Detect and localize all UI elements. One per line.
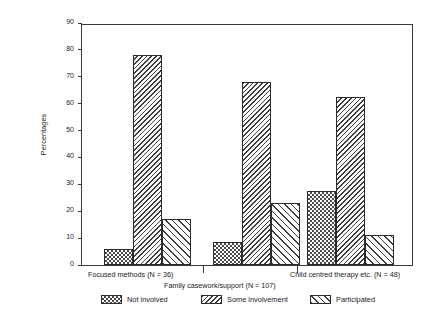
sparse-hatch-swatch bbox=[310, 295, 331, 304]
bar-group bbox=[307, 25, 394, 265]
y-tick-mark bbox=[78, 238, 82, 239]
y-tick-label: 0 bbox=[56, 260, 74, 267]
bar bbox=[133, 55, 162, 265]
legend-item[interactable]: Not involved bbox=[101, 293, 168, 305]
y-tick-mark bbox=[78, 49, 82, 50]
y-tick-mark bbox=[78, 265, 82, 266]
y-tick-label: 60 bbox=[56, 99, 74, 106]
y-tick-label: 90 bbox=[56, 18, 74, 25]
y-tick-label: 50 bbox=[56, 126, 74, 133]
bar bbox=[307, 191, 336, 265]
bar bbox=[242, 82, 271, 265]
bar bbox=[365, 235, 394, 265]
y-tick-label: 20 bbox=[56, 206, 74, 213]
grouped-bar-chart: Percentages 0102030405060708090 Focused … bbox=[0, 0, 436, 326]
y-tick-mark bbox=[78, 184, 82, 185]
legend-label: Some involvement bbox=[227, 295, 288, 304]
category-label: Family casework/support (N = 107) bbox=[164, 281, 276, 290]
legend-item[interactable]: Participated bbox=[310, 293, 375, 305]
y-tick-mark bbox=[78, 23, 82, 24]
checkerboard-swatch bbox=[101, 295, 122, 304]
chart-legend: Not involvedSome involvementParticipated bbox=[0, 293, 436, 311]
y-tick-mark bbox=[78, 211, 82, 212]
plot-area: 0102030405060708090 bbox=[81, 24, 413, 266]
dense-hatch-swatch bbox=[201, 295, 222, 304]
y-tick-label: 40 bbox=[56, 152, 74, 159]
x-axis-divider bbox=[203, 266, 204, 273]
y-tick-mark bbox=[78, 157, 82, 158]
y-tick-label: 10 bbox=[56, 233, 74, 240]
legend-item[interactable]: Some involvement bbox=[201, 293, 288, 305]
y-axis-title: Percentages bbox=[39, 80, 48, 190]
bar bbox=[271, 203, 300, 265]
bar-group bbox=[213, 25, 300, 265]
y-tick-mark bbox=[78, 130, 82, 131]
bar bbox=[336, 97, 365, 265]
bar bbox=[162, 219, 191, 265]
y-tick-mark bbox=[78, 76, 82, 77]
y-tick-label: 30 bbox=[56, 179, 74, 186]
bar bbox=[104, 249, 133, 265]
category-label: Focused methods (N = 36) bbox=[88, 270, 173, 279]
bar bbox=[213, 242, 242, 265]
category-label: Child centred therapy etc. (N = 48) bbox=[290, 270, 400, 279]
legend-label: Not involved bbox=[127, 295, 168, 304]
legend-label: Participated bbox=[336, 295, 375, 304]
y-tick-label: 80 bbox=[56, 45, 74, 52]
y-tick-label: 70 bbox=[56, 72, 74, 79]
y-tick-mark bbox=[78, 103, 82, 104]
bar-group bbox=[104, 25, 191, 265]
